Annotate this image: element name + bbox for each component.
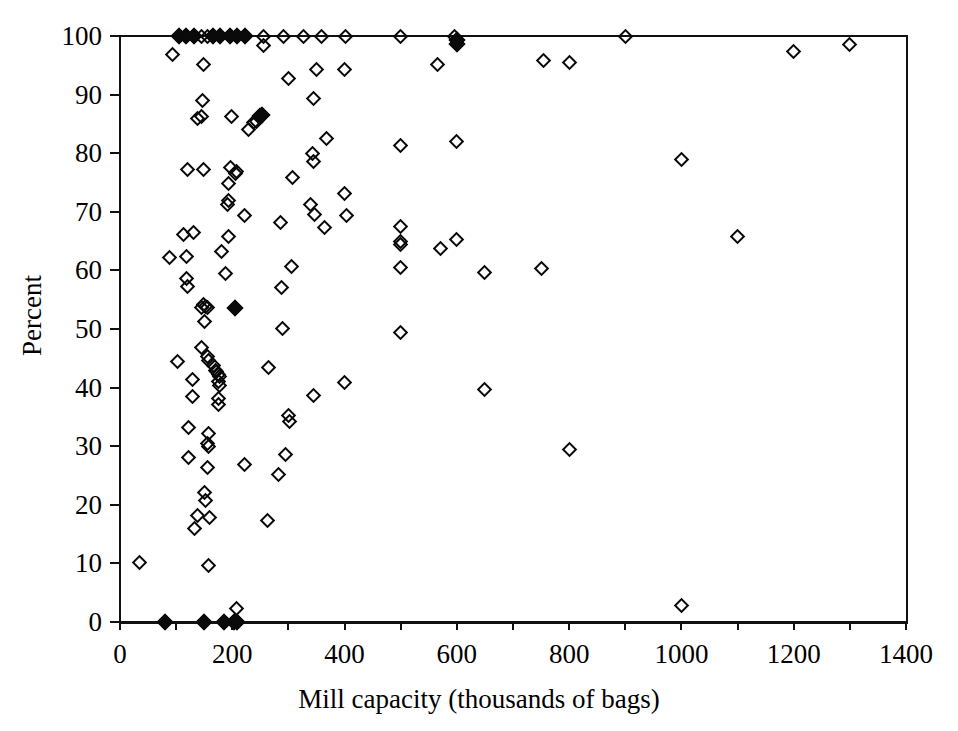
data-point (337, 375, 353, 391)
data-point (273, 215, 289, 231)
data-point (185, 372, 201, 388)
y-axis-title: Percent (17, 236, 48, 396)
data-point (449, 134, 465, 150)
data-point (221, 229, 237, 245)
data-point (393, 138, 409, 154)
y-tick-label: 10 (32, 550, 102, 577)
x-tick (400, 621, 402, 630)
data-point (196, 614, 213, 631)
data-point (271, 467, 287, 483)
x-tick (680, 621, 682, 630)
data-point (314, 28, 330, 44)
data-point (618, 28, 634, 44)
data-point (181, 420, 197, 436)
data-point (449, 232, 465, 248)
data-point (338, 208, 354, 224)
data-point (237, 208, 253, 224)
data-point (276, 28, 292, 44)
x-axis-title: Mill capacity (thousands of bags) (0, 684, 958, 715)
data-point (317, 219, 333, 235)
data-point (432, 240, 448, 256)
data-point (338, 28, 354, 44)
data-point (561, 55, 577, 71)
y-tick-label: 100 (32, 23, 102, 50)
x-tick-label: 0 (113, 641, 127, 668)
data-point (393, 325, 409, 341)
data-point (477, 382, 493, 398)
y-tick-label: 80 (32, 140, 102, 167)
data-point (180, 161, 196, 177)
data-point (393, 28, 409, 44)
data-point (195, 93, 211, 109)
y-tick-label: 70 (32, 198, 102, 225)
x-tick (905, 621, 907, 630)
data-point (281, 70, 297, 86)
x-tick (344, 621, 346, 630)
data-point (730, 229, 746, 245)
data-point (202, 509, 218, 525)
y-tick (110, 211, 120, 213)
data-point (237, 457, 253, 473)
x-tick-label: 600 (437, 641, 478, 668)
data-point (842, 36, 858, 52)
data-point (185, 389, 201, 405)
data-point (337, 62, 353, 78)
y-tick (110, 621, 120, 623)
plot-frame-right (906, 35, 908, 624)
x-tick (512, 621, 514, 630)
x-tick-label: 200 (212, 641, 253, 668)
data-point (132, 554, 148, 570)
data-point (283, 259, 299, 275)
data-point (227, 299, 244, 316)
data-point (536, 53, 552, 69)
y-tick (110, 445, 120, 447)
x-tick-label: 1400 (879, 641, 933, 668)
y-tick-label: 20 (32, 491, 102, 518)
x-tick (624, 621, 626, 630)
data-point (213, 243, 229, 259)
x-tick (737, 621, 739, 630)
data-point (156, 614, 173, 631)
data-point (199, 460, 215, 476)
data-point (275, 321, 291, 337)
data-point (186, 520, 202, 536)
x-tick (568, 621, 570, 630)
data-point (259, 513, 275, 529)
data-point (477, 265, 493, 281)
data-point (261, 360, 277, 376)
data-point (285, 170, 301, 186)
data-point (223, 109, 239, 125)
data-point (309, 62, 325, 78)
x-tick-label: 1200 (767, 641, 821, 668)
data-point (162, 250, 178, 266)
data-point (393, 219, 409, 235)
data-point (195, 162, 211, 178)
data-point (393, 260, 409, 276)
x-tick-label: 800 (549, 641, 590, 668)
data-point (295, 28, 311, 44)
data-point (337, 185, 353, 201)
data-point (674, 597, 690, 613)
data-point (186, 225, 202, 241)
x-tick-label: 1000 (654, 641, 708, 668)
x-tick-label: 400 (324, 641, 365, 668)
data-point (195, 57, 211, 73)
data-point (429, 56, 445, 72)
data-point (561, 442, 577, 458)
y-tick-label: 30 (32, 433, 102, 460)
data-point (197, 314, 213, 330)
data-point (170, 353, 186, 369)
x-tick (793, 621, 795, 630)
y-tick (110, 562, 120, 564)
data-point (273, 280, 289, 296)
y-tick-label: 0 (32, 609, 102, 636)
y-tick (110, 94, 120, 96)
y-tick (110, 328, 120, 330)
data-point (178, 249, 194, 265)
data-point (533, 261, 549, 277)
y-tick (110, 152, 120, 154)
x-tick (456, 621, 458, 630)
data-point (165, 46, 181, 62)
x-tick (849, 621, 851, 630)
data-point (786, 43, 802, 59)
